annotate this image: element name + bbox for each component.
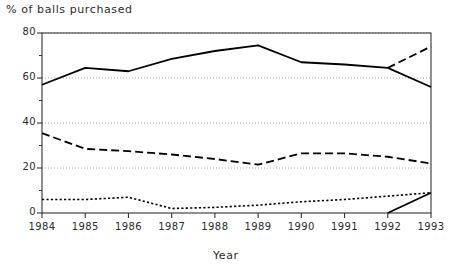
y-tick-label: 20 bbox=[6, 161, 36, 172]
y-tick-label: 40 bbox=[6, 116, 36, 127]
x-tick-label: 1984 bbox=[20, 221, 64, 232]
x-tick-label: 1987 bbox=[150, 221, 194, 232]
y-tick-label: 80 bbox=[6, 26, 36, 37]
x-tick-label: 1986 bbox=[106, 221, 150, 232]
y-tick-label: 0 bbox=[6, 206, 36, 217]
x-tick-label: 1991 bbox=[323, 221, 367, 232]
series-line-bottom-series bbox=[42, 193, 431, 209]
series-line-top-series bbox=[42, 45, 431, 87]
line-chart: % of balls purchased Year 020406080 1984… bbox=[0, 0, 458, 268]
x-tick-label: 1985 bbox=[63, 221, 107, 232]
x-tick-label: 1990 bbox=[279, 221, 323, 232]
series-line-top-series-branch bbox=[388, 47, 431, 68]
y-tick-label: 60 bbox=[6, 71, 36, 82]
x-tick-label: 1988 bbox=[193, 221, 237, 232]
series-line-middle-series bbox=[42, 133, 431, 165]
x-tick-label: 1992 bbox=[366, 221, 410, 232]
x-tick-label: 1993 bbox=[409, 221, 453, 232]
x-tick-label: 1989 bbox=[236, 221, 280, 232]
